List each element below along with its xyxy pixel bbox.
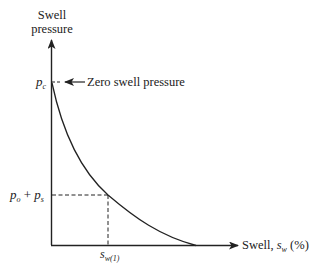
pc-label: pc [35, 74, 47, 91]
y-axis-label-line2: pressure [31, 22, 73, 36]
swell-pressure-diagram: Swell pressure Swell, sw (%) pc Zero swe… [0, 0, 316, 268]
sw1-label: sw(1) [100, 247, 120, 263]
swell-pressure-curve [52, 83, 196, 246]
zero-swell-pressure-label: Zero swell pressure [87, 75, 185, 89]
po-plus-ps-label: po + ps [9, 187, 44, 204]
y-axis-label-line1: Swell [38, 8, 67, 22]
x-axis-label: Swell, sw (%) [242, 238, 309, 254]
